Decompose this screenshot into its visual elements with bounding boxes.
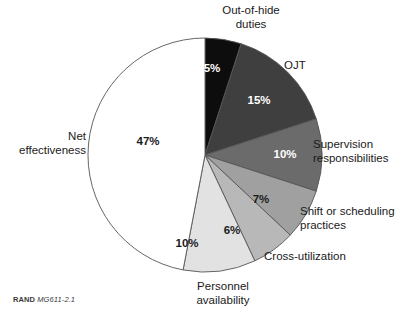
pie-category-label-ojt: OJT xyxy=(284,59,344,73)
pie-slice[interactable] xyxy=(88,38,205,270)
pie-chart-figure: 5%15%10%7%6%10%47% Out-of-hide duties OJ… xyxy=(0,0,417,324)
pie-category-label-net-effectiveness: Net effectiveness xyxy=(14,130,86,157)
figure-source-note: RAND MG611-2.1 xyxy=(13,295,75,304)
pie-slice-value-label: 7% xyxy=(253,193,270,205)
pie-category-label-supervision-responsibilities: Supervision responsibilities xyxy=(313,138,417,165)
pie-slice-value-label: 10% xyxy=(175,237,198,249)
pie-category-label-personnel-availability: Personnel availability xyxy=(168,280,278,307)
pie-slice-value-label: 5% xyxy=(204,62,221,74)
pie-slice-value-label: 6% xyxy=(224,224,241,236)
pie-slice-value-label: 47% xyxy=(136,135,159,147)
figure-source-publisher: RAND xyxy=(13,295,35,304)
pie-slice-value-label: 10% xyxy=(273,148,296,160)
pie-category-label-shift-or-scheduling-practices: Shift or scheduling practices xyxy=(300,205,417,232)
figure-source-document-id: MG611-2.1 xyxy=(37,295,75,304)
pie-category-label-cross-utilization: Cross-utilization xyxy=(264,250,388,264)
pie-category-label-out-of-hide-duties: Out-of-hide duties xyxy=(196,4,306,31)
pie-slice-value-label: 15% xyxy=(247,94,270,106)
